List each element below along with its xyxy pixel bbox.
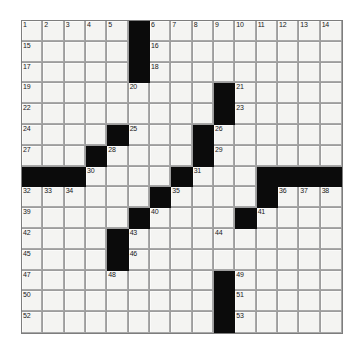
grid-open-cell[interactable] [299,271,320,292]
grid-open-cell[interactable] [107,42,128,63]
grid-open-cell[interactable] [107,291,128,312]
grid-open-cell[interactable]: 19 [22,83,43,104]
grid-open-cell[interactable] [321,146,342,167]
grid-open-cell[interactable] [321,312,342,333]
grid-open-cell[interactable]: 51 [235,291,256,312]
grid-open-cell[interactable] [299,42,320,63]
grid-open-cell[interactable] [107,208,128,229]
grid-open-cell[interactable] [65,250,86,271]
grid-open-cell[interactable]: 42 [22,229,43,250]
grid-open-cell[interactable] [235,229,256,250]
grid-open-cell[interactable] [321,208,342,229]
grid-open-cell[interactable] [150,146,171,167]
grid-open-cell[interactable] [193,250,214,271]
grid-open-cell[interactable] [214,208,235,229]
grid-open-cell[interactable] [278,83,299,104]
grid-open-cell[interactable] [193,229,214,250]
grid-open-cell[interactable]: 41 [257,208,278,229]
grid-open-cell[interactable] [171,42,192,63]
grid-open-cell[interactable] [321,271,342,292]
grid-open-cell[interactable] [321,291,342,312]
grid-open-cell[interactable] [214,63,235,84]
grid-open-cell[interactable] [193,312,214,333]
grid-open-cell[interactable]: 9 [214,21,235,42]
grid-open-cell[interactable] [107,63,128,84]
grid-open-cell[interactable] [43,250,64,271]
grid-open-cell[interactable]: 39 [22,208,43,229]
grid-open-cell[interactable] [107,312,128,333]
grid-open-cell[interactable]: 53 [235,312,256,333]
grid-open-cell[interactable] [278,104,299,125]
grid-open-cell[interactable]: 48 [107,271,128,292]
grid-open-cell[interactable]: 29 [214,146,235,167]
grid-open-cell[interactable] [171,208,192,229]
grid-open-cell[interactable]: 30 [86,167,107,188]
grid-open-cell[interactable] [129,312,150,333]
grid-open-cell[interactable] [65,42,86,63]
grid-open-cell[interactable]: 44 [214,229,235,250]
grid-open-cell[interactable] [43,208,64,229]
grid-open-cell[interactable]: 28 [107,146,128,167]
grid-open-cell[interactable] [43,146,64,167]
grid-open-cell[interactable] [193,42,214,63]
grid-open-cell[interactable] [107,167,128,188]
grid-open-cell[interactable] [235,63,256,84]
grid-open-cell[interactable] [129,104,150,125]
grid-open-cell[interactable] [107,187,128,208]
grid-open-cell[interactable] [299,83,320,104]
grid-open-cell[interactable]: 16 [150,42,171,63]
grid-open-cell[interactable] [150,229,171,250]
grid-open-cell[interactable]: 12 [278,21,299,42]
grid-open-cell[interactable] [43,291,64,312]
grid-open-cell[interactable] [299,146,320,167]
grid-open-cell[interactable] [193,271,214,292]
grid-open-cell[interactable]: 13 [299,21,320,42]
grid-open-cell[interactable] [278,146,299,167]
grid-open-cell[interactable]: 17 [22,63,43,84]
grid-open-cell[interactable]: 37 [299,187,320,208]
grid-open-cell[interactable] [65,104,86,125]
grid-open-cell[interactable] [214,250,235,271]
grid-open-cell[interactable] [257,125,278,146]
grid-open-cell[interactable] [171,125,192,146]
grid-open-cell[interactable] [107,104,128,125]
grid-open-cell[interactable] [193,83,214,104]
grid-open-cell[interactable] [43,312,64,333]
grid-open-cell[interactable]: 3 [65,21,86,42]
grid-open-cell[interactable] [171,250,192,271]
grid-open-cell[interactable] [43,42,64,63]
grid-open-cell[interactable] [171,104,192,125]
grid-open-cell[interactable] [278,125,299,146]
grid-open-cell[interactable] [278,42,299,63]
grid-open-cell[interactable]: 23 [235,104,256,125]
grid-open-cell[interactable]: 18 [150,63,171,84]
grid-open-cell[interactable] [150,312,171,333]
grid-open-cell[interactable]: 27 [22,146,43,167]
grid-open-cell[interactable]: 35 [171,187,192,208]
grid-open-cell[interactable] [107,83,128,104]
grid-open-cell[interactable] [257,42,278,63]
grid-open-cell[interactable] [321,63,342,84]
grid-open-cell[interactable]: 15 [22,42,43,63]
grid-open-cell[interactable] [129,291,150,312]
grid-open-cell[interactable] [214,167,235,188]
grid-open-cell[interactable] [129,271,150,292]
grid-open-cell[interactable] [43,271,64,292]
grid-open-cell[interactable]: 43 [129,229,150,250]
grid-open-cell[interactable]: 38 [321,187,342,208]
grid-open-cell[interactable]: 4 [86,21,107,42]
grid-open-cell[interactable] [150,125,171,146]
grid-open-cell[interactable] [214,42,235,63]
grid-open-cell[interactable]: 52 [22,312,43,333]
grid-open-cell[interactable] [129,167,150,188]
grid-open-cell[interactable] [129,146,150,167]
grid-open-cell[interactable]: 26 [214,125,235,146]
grid-open-cell[interactable] [235,146,256,167]
grid-open-cell[interactable] [214,187,235,208]
grid-open-cell[interactable]: 5 [107,21,128,42]
grid-open-cell[interactable] [257,146,278,167]
grid-open-cell[interactable] [65,146,86,167]
grid-open-cell[interactable] [257,312,278,333]
grid-open-cell[interactable]: 21 [235,83,256,104]
grid-open-cell[interactable] [235,250,256,271]
